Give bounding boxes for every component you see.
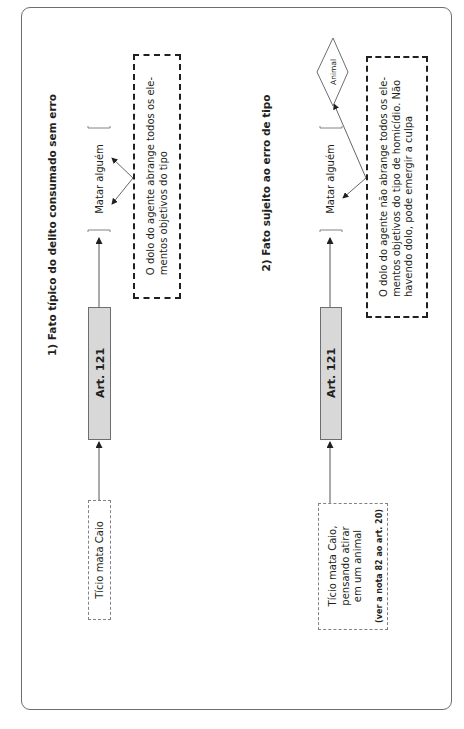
section2-note-line1: O dolo do agente não abrange todos os el… (378, 77, 391, 297)
section1-fact-text: Tício mata Caio (93, 521, 106, 599)
arrow-note-to-element-2 (343, 178, 366, 198)
section2-note: O dolo do agente não abrange todos os el… (378, 77, 416, 297)
section2-fact: Tício mata Caio, pensando atirar em um a… (327, 526, 365, 607)
section1-title: 1) Fato típico do delito consumado sem e… (46, 94, 58, 356)
section2-note-line2: mentos objetivos do tipo de homicídio. N… (391, 77, 404, 297)
section1-note: O dolo do agente abrange todos os ele- m… (145, 77, 170, 275)
section2-fact-line1: Tício mata Caio, (327, 526, 340, 607)
section1-element-text: Matar alguém (93, 144, 106, 214)
section2-fact-line3: em um animal (352, 526, 365, 607)
section1-note-line2: mentos objetivos do tipo (157, 77, 170, 275)
section2-title: 2) Fato sujeito ao erro de tipo (260, 94, 272, 271)
section1-note-line1: O dolo do agente abrange todos os ele- (145, 77, 158, 275)
arrow-note-to-animal-2 (334, 104, 366, 178)
section2-fact-ref: (ver a nota 82 ao art. 20) (375, 509, 384, 623)
section2-diamond-label: Animal (329, 59, 338, 85)
section1-article-label: Art. 121 (93, 348, 106, 398)
section2-fact-line2: pensando atirar (340, 526, 353, 607)
section2-element-text: Matar alguém (325, 144, 338, 214)
arrow-note-to-element-top-1 (112, 158, 133, 178)
section2-note-line3: havendo dolo, pode emergir a culpa (403, 77, 416, 297)
arrow-note-to-element-bottom-1 (112, 178, 133, 204)
section2-article-label: Art. 121 (325, 348, 338, 398)
